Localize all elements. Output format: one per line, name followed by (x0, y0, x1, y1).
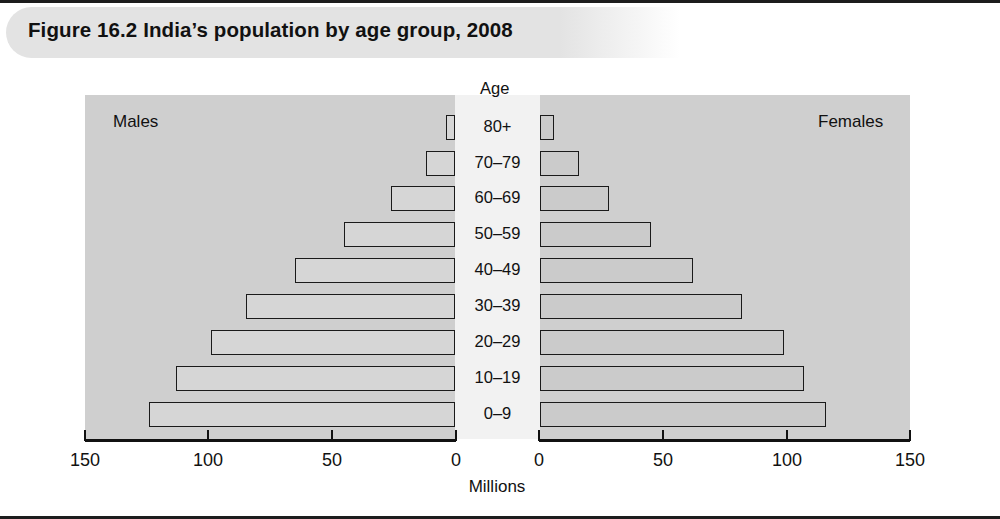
axis-tick-right-150 (909, 430, 912, 441)
bar-female-10-19 (540, 366, 804, 391)
bar-male-40-49 (295, 258, 456, 283)
bar-male-0-9 (149, 402, 455, 427)
axis-tick-label-right-0: 0 (534, 450, 544, 471)
axis-tick-left-150 (84, 430, 87, 441)
age-group-label-0-9: 0–9 (455, 404, 540, 423)
bar-male-20-29 (211, 330, 456, 355)
axis-tick-left-0 (455, 430, 458, 441)
bar-male-30-39 (246, 294, 456, 319)
axis-tick-left-50 (331, 430, 333, 441)
x-axis-title-text: Millions (469, 477, 526, 496)
bar-female-20-29 (540, 330, 785, 355)
age-group-label-10-19: 10–19 (455, 368, 540, 387)
age-group-label-70-79: 70–79 (455, 153, 540, 172)
bar-male-10-19 (176, 366, 455, 391)
bar-female-50-59 (540, 222, 651, 247)
series-label-males: Males (113, 112, 158, 132)
axis-tick-label-right-150: 150 (895, 450, 925, 471)
age-group-label-20-29: 20–29 (455, 332, 540, 351)
age-group-label-60-69: 60–69 (455, 188, 540, 207)
axis-tick-right-50 (662, 430, 664, 441)
bar-female-80+ (540, 115, 555, 140)
age-axis-header: Age (480, 79, 509, 98)
age-group-label-50-59: 50–59 (455, 224, 540, 243)
bar-female-30-39 (540, 294, 743, 319)
bar-male-50-59 (344, 222, 455, 247)
bar-female-40-49 (540, 258, 693, 283)
axis-tick-label-left-100: 100 (193, 450, 223, 471)
axis-tick-left-100 (207, 430, 209, 441)
x-axis-title: Millions (0, 477, 1000, 497)
bar-male-80+ (446, 115, 456, 140)
bar-female-0-9 (540, 402, 827, 427)
figure-header-band-fade (560, 7, 680, 58)
axis-tick-label-left-50: 50 (322, 450, 342, 471)
left-axis-line (85, 439, 456, 442)
bar-male-60-69 (391, 186, 455, 211)
bar-female-60-69 (540, 186, 609, 211)
bar-male-70-79 (426, 151, 456, 176)
axis-tick-right-0 (538, 430, 541, 441)
figure-container: Figure 16.2 India’s population by age gr… (0, 0, 1000, 519)
age-group-label-30-39: 30–39 (455, 296, 540, 315)
figure-title: Figure 16.2 India’s population by age gr… (28, 18, 513, 42)
figure-top-rule (0, 0, 1000, 3)
series-label-females: Females (818, 112, 883, 132)
axis-tick-right-100 (786, 430, 788, 441)
right-axis-line (539, 439, 910, 442)
axis-tick-label-left-150: 150 (70, 450, 100, 471)
axis-tick-label-right-100: 100 (772, 450, 802, 471)
bar-female-70-79 (540, 151, 580, 176)
age-group-label-40-49: 40–49 (455, 260, 540, 279)
axis-tick-label-left-0: 0 (451, 450, 461, 471)
age-group-label-80+: 80+ (455, 117, 540, 136)
axis-tick-label-right-50: 50 (653, 450, 673, 471)
